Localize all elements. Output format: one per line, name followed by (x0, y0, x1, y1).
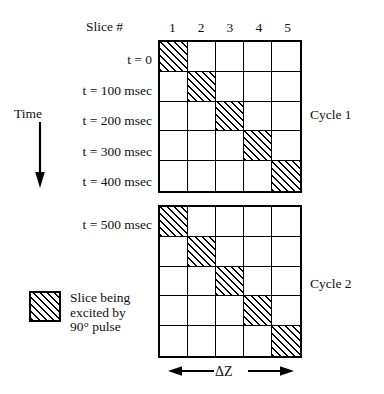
cell-c1-r3-s3[interactable] (216, 102, 244, 132)
legend-line-1: Slice being (70, 291, 130, 306)
cell-c2-r1-s4[interactable] (244, 207, 272, 237)
cell-c2-r1-s2[interactable] (188, 207, 216, 237)
cell-c1-r4-s1[interactable] (160, 131, 188, 161)
row-label-t500: t = 500 msec (83, 217, 152, 233)
cell-c2-r2-s2[interactable] (188, 237, 216, 267)
row-label-t100: t = 100 msec (83, 83, 152, 99)
cell-c2-r2-s5[interactable] (272, 237, 300, 267)
row-label-t200: t = 200 msec (83, 113, 152, 129)
cycle-2-grid (158, 205, 302, 358)
cell-c1-r2-s4[interactable] (244, 72, 272, 102)
slice-axis-header: Slice # (86, 20, 123, 34)
cell-c2-r4-s2[interactable] (188, 296, 216, 326)
cell-c2-r4-s3[interactable] (216, 296, 244, 326)
time-direction-arrow-icon (33, 122, 47, 188)
cell-c1-r1-s4[interactable] (244, 42, 272, 72)
cell-c2-r2-s3[interactable] (216, 237, 244, 267)
cell-c1-r4-s4[interactable] (244, 131, 272, 161)
column-header-4: 4 (244, 20, 273, 36)
cell-c2-r4-s1[interactable] (160, 296, 188, 326)
cell-c2-r5-s1[interactable] (160, 326, 188, 356)
legend-caption: Slice being excited by 90° pulse (70, 291, 130, 335)
cell-c1-r2-s2[interactable] (188, 72, 216, 102)
cell-c2-r5-s3[interactable] (216, 326, 244, 356)
row-label-t300: t = 300 msec (83, 144, 152, 160)
column-header-2: 2 (187, 20, 216, 36)
cell-c1-r3-s4[interactable] (244, 102, 272, 132)
legend-hatched-swatch-icon (29, 291, 61, 322)
cell-c1-r5-s2[interactable] (188, 161, 216, 191)
cycle-2-label: Cycle 2 (310, 276, 352, 292)
cell-c2-r1-s3[interactable] (216, 207, 244, 237)
row-label-t400: t = 400 msec (83, 174, 152, 190)
cell-c2-r3-s3[interactable] (216, 267, 244, 297)
cell-c2-r3-s2[interactable] (188, 267, 216, 297)
row-label-t0: t = 0 (127, 52, 152, 68)
cell-c1-r3-s5[interactable] (272, 102, 300, 132)
cell-c2-r1-s1[interactable] (160, 207, 188, 237)
cell-c1-r2-s1[interactable] (160, 72, 188, 102)
cell-c2-r5-s5[interactable] (272, 326, 300, 356)
column-header-1: 1 (158, 20, 187, 36)
cell-c2-r2-s1[interactable] (160, 237, 188, 267)
cell-c1-r3-s1[interactable] (160, 102, 188, 132)
cell-c1-r5-s1[interactable] (160, 161, 188, 191)
cell-c2-r3-s1[interactable] (160, 267, 188, 297)
cell-c1-r3-s2[interactable] (188, 102, 216, 132)
cell-c1-r2-s3[interactable] (216, 72, 244, 102)
cell-c2-r4-s5[interactable] (272, 296, 300, 326)
time-axis-label: Time (14, 106, 42, 122)
cell-c2-r3-s4[interactable] (244, 267, 272, 297)
cell-c1-r4-s5[interactable] (272, 131, 300, 161)
cell-c1-r4-s2[interactable] (188, 131, 216, 161)
cell-c2-r5-s2[interactable] (188, 326, 216, 356)
cell-c1-r4-s3[interactable] (216, 131, 244, 161)
cell-c2-r3-s5[interactable] (272, 267, 300, 297)
cell-c1-r1-s5[interactable] (272, 42, 300, 72)
slice-thickness-label: ΔZ (215, 364, 233, 380)
legend-line-2: excited by (70, 306, 130, 321)
cell-c1-r1-s1[interactable] (160, 42, 188, 72)
cell-c2-r2-s4[interactable] (244, 237, 272, 267)
figure-canvas: Slice # 1 2 3 4 5 Time t = 0 t = 100 mse… (0, 0, 384, 394)
cell-c1-r5-s4[interactable] (244, 161, 272, 191)
cell-c1-r1-s3[interactable] (216, 42, 244, 72)
cycle-1-label: Cycle 1 (310, 107, 352, 123)
cell-c1-r2-s5[interactable] (272, 72, 300, 102)
cycle-1-grid (158, 40, 302, 193)
column-header-3: 3 (216, 20, 245, 36)
cell-c2-r4-s4[interactable] (244, 296, 272, 326)
cell-c1-r5-s3[interactable] (216, 161, 244, 191)
cell-c2-r1-s5[interactable] (272, 207, 300, 237)
legend-line-3: 90° pulse (70, 320, 130, 335)
column-header-5: 5 (273, 20, 302, 36)
cell-c1-r1-s2[interactable] (188, 42, 216, 72)
cell-c1-r5-s5[interactable] (272, 161, 300, 191)
cell-c2-r5-s4[interactable] (244, 326, 272, 356)
